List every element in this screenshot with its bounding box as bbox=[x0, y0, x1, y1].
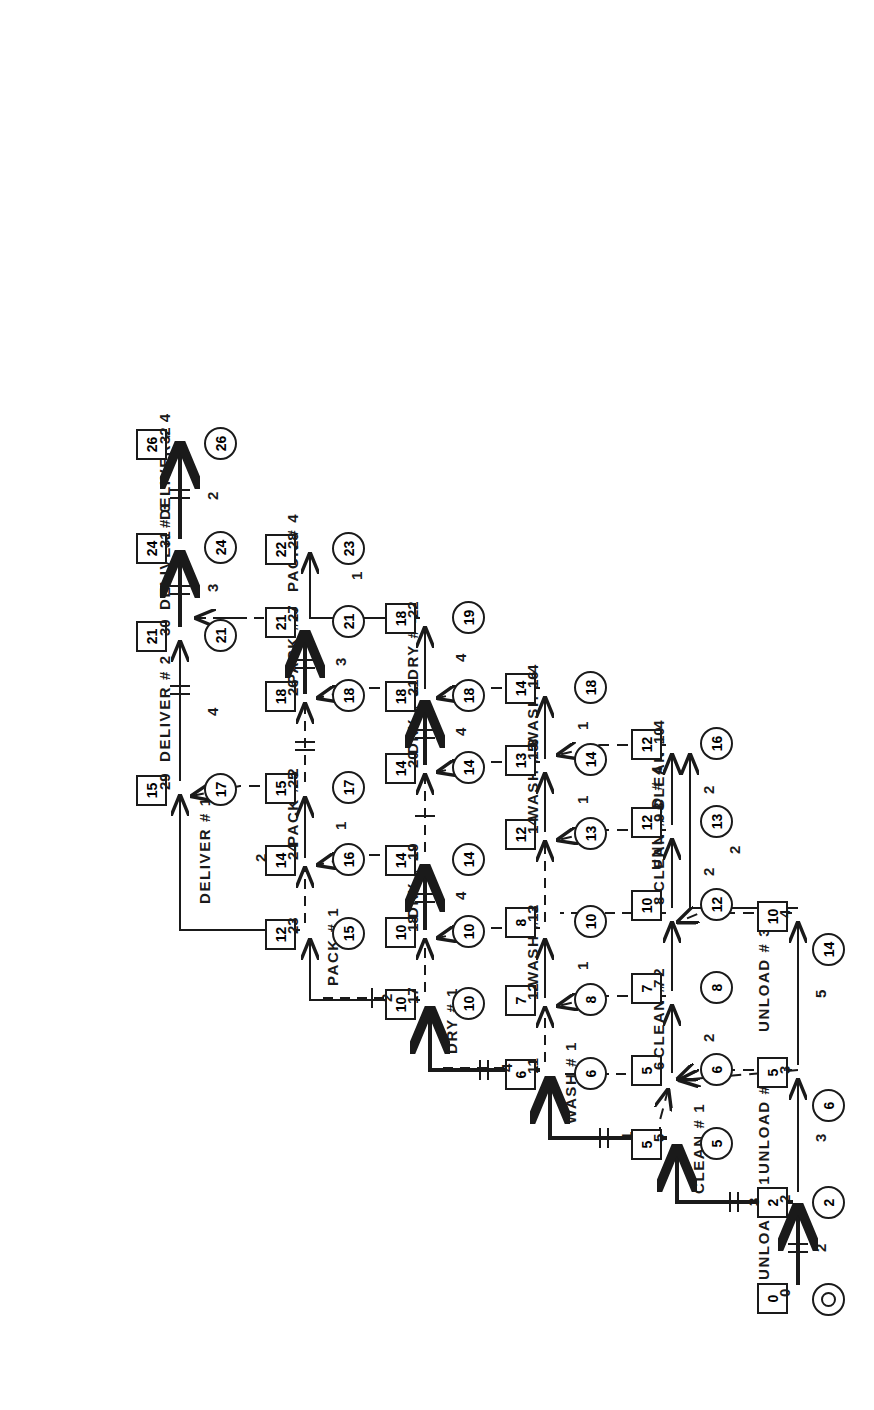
duration-pack-3: 3 bbox=[332, 658, 349, 666]
duration-pack-2: 1 bbox=[332, 822, 349, 830]
duration-deliver-3: 3 bbox=[204, 584, 221, 592]
node-label-16: 16 bbox=[524, 671, 541, 688]
duration-pack-4: 1 bbox=[348, 572, 365, 580]
node-label-0: 0 bbox=[776, 1289, 793, 1297]
lf-circle-30: 21 bbox=[204, 619, 237, 652]
diagram-frame: 0 0 0 UNLOAD # 1 2 2 2 2 UNLOAD # 2 3 5 … bbox=[0, 0, 874, 1410]
lf-circle-4: 14 bbox=[812, 933, 845, 966]
lf-circle-18: 10 bbox=[452, 915, 485, 948]
node-label-10: 10 bbox=[650, 727, 667, 744]
activity-label-deliver-2: DELIVER # 2 bbox=[156, 654, 173, 762]
lf-circle-2: 2 bbox=[812, 1186, 845, 1219]
es-box-6: 5 bbox=[631, 1055, 662, 1086]
duration-unload-3: 5 bbox=[812, 990, 829, 998]
lf-circle-21: 18 bbox=[452, 679, 485, 712]
node-label-23: 23 bbox=[284, 917, 301, 934]
duration-clean-4: 2 bbox=[700, 786, 717, 794]
duration-deliver-4: 2 bbox=[204, 492, 221, 500]
lf-circle-14: 13 bbox=[574, 817, 607, 850]
node-label-8: 8 bbox=[650, 897, 667, 905]
node-label-31: 31 bbox=[156, 531, 173, 548]
activity-label-unload-3: UNLOAD # 3 bbox=[755, 927, 772, 1032]
duration-unload-1: 2 bbox=[812, 1244, 829, 1252]
lf-circle-9: 13 bbox=[700, 805, 733, 838]
node-label-25: 25 bbox=[284, 771, 301, 788]
node-label-4: 4 bbox=[776, 910, 793, 918]
duration-deliver-1: 2 bbox=[252, 854, 269, 862]
node-label-17: 17 bbox=[404, 987, 421, 1004]
lf-circle-31: 24 bbox=[204, 531, 237, 564]
lf-circle-20: 14 bbox=[452, 751, 485, 784]
node-label-29: 29 bbox=[156, 773, 173, 790]
lf-circle-26: 18 bbox=[332, 679, 365, 712]
duration-wash-4: 1 bbox=[574, 722, 591, 730]
node-label-13: 13 bbox=[524, 905, 541, 922]
lf-circle-27: 21 bbox=[332, 605, 365, 638]
node-label-9: 9 bbox=[650, 814, 667, 822]
node-label-27: 27 bbox=[284, 605, 301, 622]
lf-circle-25: 17 bbox=[332, 771, 365, 804]
activity-label-deliver-1: DELIVER # 1 bbox=[196, 796, 213, 904]
node-label-30: 30 bbox=[156, 619, 173, 636]
duration-wash-3: 1 bbox=[574, 796, 591, 804]
node-label-6: 6 bbox=[650, 1062, 667, 1070]
duration-unload-2: 3 bbox=[812, 1134, 829, 1142]
es-box-0: 0 bbox=[757, 1283, 788, 1314]
lf-circle-6: 6 bbox=[700, 1053, 733, 1086]
lf-circle-24: 16 bbox=[332, 843, 365, 876]
lf-circle-29: 17 bbox=[204, 773, 237, 806]
duration-dry-4: 4 bbox=[452, 654, 469, 662]
duration-clean-3: 2 bbox=[700, 868, 717, 876]
lf-circle-7: 8 bbox=[700, 971, 733, 1004]
node-label-28: 28 bbox=[284, 532, 301, 549]
duration-clean-1: 3 bbox=[745, 1198, 762, 1206]
lf-circle-15: 14 bbox=[574, 743, 607, 776]
lf-circle-5: 5 bbox=[700, 1127, 733, 1160]
lf-circle-23: 15 bbox=[332, 917, 365, 950]
es-box-7: 7 bbox=[631, 973, 662, 1004]
lf-circle-11: 6 bbox=[574, 1057, 607, 1090]
es-box-9: 12 bbox=[631, 807, 662, 838]
lf-circle-17: 10 bbox=[452, 987, 485, 1020]
node-label-5: 5 bbox=[650, 1134, 667, 1142]
duration-wash-1: 1 bbox=[618, 1132, 635, 1140]
node-label-3: 3 bbox=[776, 1066, 793, 1074]
node-label-19: 19 bbox=[404, 843, 421, 860]
network-edges bbox=[0, 0, 874, 1410]
duration-dry-2: 4 bbox=[452, 892, 469, 900]
lf-circle-19: 14 bbox=[452, 843, 485, 876]
node-label-22: 22 bbox=[404, 601, 421, 618]
duration-clean-2: 2 bbox=[700, 1034, 717, 1042]
duration-dry-3: 4 bbox=[452, 728, 469, 736]
lf-circle-22: 19 bbox=[452, 601, 485, 634]
es-box-8: 10 bbox=[631, 890, 662, 921]
lf-circle-3: 6 bbox=[812, 1089, 845, 1122]
lf-circle-10: 16 bbox=[700, 727, 733, 760]
lf-circle-0: 0 bbox=[812, 1283, 845, 1316]
duration-unload-4: 2 bbox=[726, 846, 743, 854]
node-label-11: 11 bbox=[524, 1058, 541, 1074]
duration-wash-2: 1 bbox=[574, 962, 591, 970]
lf-circle-28: 23 bbox=[332, 532, 365, 565]
lf-circle-32: 26 bbox=[204, 427, 237, 460]
lf-circle-8: 12 bbox=[700, 888, 733, 921]
node-label-32: 32 bbox=[156, 427, 173, 444]
node-label-2: 2 bbox=[776, 1195, 793, 1203]
lf-circle-12: 8 bbox=[574, 983, 607, 1016]
lf-circle-16: 18 bbox=[574, 671, 607, 704]
duration-pack-1: 2 bbox=[378, 994, 395, 1002]
duration-deliver-2: 4 bbox=[204, 708, 221, 716]
duration-dry-1: 4 bbox=[498, 1064, 515, 1072]
node-label-7: 7 bbox=[650, 980, 667, 988]
node-label-21: 21 bbox=[404, 679, 421, 696]
network-diagram-canvas: 0 0 0 UNLOAD # 1 2 2 2 2 UNLOAD # 2 3 5 … bbox=[0, 0, 874, 1410]
lf-circle-13: 10 bbox=[574, 905, 607, 938]
